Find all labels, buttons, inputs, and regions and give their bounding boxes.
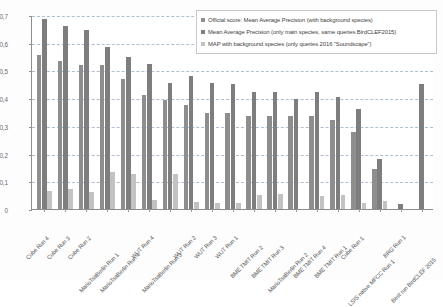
y-tick-label: 0,4 (0, 96, 8, 103)
legend-label-2: MAP with background species (only querie… (208, 41, 371, 47)
bar-series-2 (419, 84, 424, 209)
x-label-cell: BRG Run 1 (390, 212, 411, 281)
x-label-cell: WUT Run 2 (180, 212, 201, 281)
bar-series-1 (351, 132, 356, 209)
bar-group (34, 16, 55, 209)
legend-swatch-icon-2 (201, 42, 205, 46)
x-label-cell: Cube Run 2 (75, 212, 96, 281)
bar-series-2 (273, 92, 278, 210)
bar-series-1 (79, 65, 84, 209)
bar-series-2 (105, 47, 110, 209)
bar-series-1 (163, 100, 168, 209)
bar-series-2 (356, 109, 361, 209)
bar-series-2 (231, 84, 236, 209)
y-tick-label: 0,2 (0, 151, 8, 158)
bar-series-3 (68, 189, 73, 209)
y-tick-label: 0,1 (0, 179, 8, 186)
bar-series-2 (168, 83, 173, 209)
x-label-cell: WUT Run 3 (201, 212, 222, 281)
bar-series-2 (377, 159, 382, 209)
x-label-cell: MarioTsaBerlin Run 4 (117, 212, 138, 281)
bar-series-3 (131, 174, 136, 209)
bar-series-3 (110, 172, 115, 209)
x-label-cell: Best run BirdCLEF 2015 (411, 212, 432, 281)
bar-group (76, 16, 97, 209)
y-tick-label: 0,5 (0, 68, 8, 75)
bar-series-3 (47, 191, 52, 209)
legend-item-1: Mean Average Precision (only main specie… (201, 26, 432, 38)
legend-swatch-icon-1 (201, 30, 205, 34)
x-label-cell: MarioTsaBerlin Run 1 (96, 212, 117, 281)
x-axis-labels: Cube Run 4Cube Run 3Cube Run 2MarioTsaBe… (31, 212, 433, 281)
bar-series-1 (37, 55, 42, 209)
bar-series-3 (152, 200, 157, 209)
bar-series-3 (383, 201, 388, 209)
bar-series-1 (121, 79, 126, 209)
legend-item-0: Official score: Mean Average Precision (… (201, 14, 432, 26)
x-label-cell: Cube Run 1 (348, 212, 369, 281)
bar-series-2 (84, 30, 89, 209)
bar-series-1 (142, 95, 147, 209)
x-label-cell: MarioTsaBerlin Run 3 (159, 212, 180, 281)
bar-series-2 (147, 64, 152, 210)
bar-series-3 (215, 203, 220, 209)
bar-series-1 (100, 65, 105, 209)
bar-series-3 (194, 202, 199, 209)
bar-series-1 (58, 61, 63, 209)
bar-series-3 (89, 192, 94, 209)
bar-group (160, 16, 181, 209)
bar-series-2 (189, 76, 194, 209)
y-tick-label: 0 (0, 207, 8, 214)
bar-series-1 (288, 116, 293, 209)
legend-item-2: MAP with background species (only querie… (201, 38, 432, 50)
legend-label-1: Mean Average Precision (only main specie… (208, 29, 396, 35)
bar-group (139, 16, 160, 209)
bar-series-2 (294, 99, 299, 209)
bar-series-3 (362, 203, 367, 209)
bar-series-1 (309, 116, 314, 209)
chart-legend: Official score: Mean Average Precision (… (196, 10, 437, 54)
bar-series-2 (126, 57, 131, 209)
x-label-cell: LSIS native MFCC Run 1 (369, 212, 390, 281)
x-label-cell: WUT Run 4 (138, 212, 159, 281)
bar-series-2 (252, 92, 257, 210)
bar-series-1 (267, 116, 272, 209)
x-label-cell: Cube Run 4 (33, 212, 54, 281)
bar-series-1 (246, 116, 251, 209)
y-tick-label: 0,3 (0, 123, 8, 130)
bar-group (55, 16, 76, 209)
bar-series-1 (225, 113, 230, 209)
bar-series-3 (173, 174, 178, 209)
x-label-cell: BME TMIT Run 3 (264, 212, 285, 281)
y-tick-label: 0,6 (0, 40, 8, 47)
x-label-cell: Cube Run 3 (54, 212, 75, 281)
bar-series-2 (210, 83, 215, 209)
legend-swatch-icon-0 (201, 18, 205, 22)
bar-series-1 (372, 169, 377, 209)
bar-series-3 (341, 195, 346, 209)
legend-label-0: Official score: Mean Average Precision (… (208, 17, 373, 23)
bar-series-2 (336, 97, 341, 209)
bar-series-3 (278, 194, 283, 209)
bar-series-2 (315, 92, 320, 209)
y-tick-mark (29, 210, 32, 211)
bar-series-3 (320, 196, 325, 209)
bar-series-1 (205, 113, 210, 209)
bar-series-3 (236, 203, 241, 209)
bar-series-2 (63, 26, 68, 209)
y-tick-label: 0,7 (0, 13, 8, 20)
bar-series-1 (330, 120, 335, 209)
bar-series-2 (42, 19, 47, 209)
bar-series-1 (184, 105, 189, 209)
x-label-cell: BME TMIT Run 1 (327, 212, 348, 281)
bar-group (97, 16, 118, 209)
bar-series-3 (257, 195, 262, 209)
bar-group (118, 16, 139, 209)
